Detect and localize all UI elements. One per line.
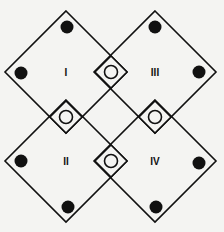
diamond-diagram: I III II IV: [0, 0, 224, 232]
filled-dot-icon: [61, 21, 74, 34]
filled-dot-icon: [149, 21, 162, 34]
label-region-IV: IV: [150, 156, 160, 167]
open-dot-icon: [60, 111, 73, 124]
label-region-III: III: [151, 67, 160, 78]
filled-dot-icon: [15, 155, 28, 168]
label-region-II: II: [63, 156, 69, 167]
open-dot-icon: [105, 155, 118, 168]
filled-dot-icon: [62, 201, 75, 214]
filled-dot-icon: [193, 66, 206, 79]
open-dot-icon: [105, 66, 118, 79]
filled-dot-icon: [15, 67, 28, 80]
filled-dot-icon: [193, 157, 206, 170]
dots: [15, 21, 206, 214]
label-region-I: I: [65, 67, 68, 78]
filled-dot-icon: [150, 201, 163, 214]
large-diamonds: [5, 11, 216, 222]
open-dot-icon: [149, 111, 162, 124]
